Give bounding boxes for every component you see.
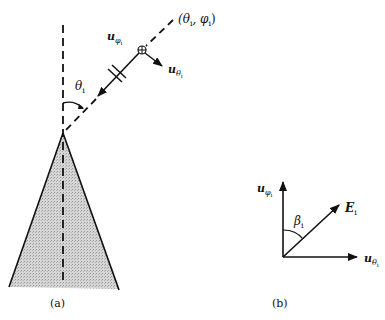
direction-label: (θi, φi) xyxy=(178,12,216,28)
incidence-direction-dashed-line-lower xyxy=(63,99,96,133)
u-theta-label-a: uθi xyxy=(168,63,183,79)
circled-plus-icon xyxy=(138,46,146,54)
u-theta-arrow-a xyxy=(145,53,162,66)
beta-angle-arc xyxy=(283,230,303,239)
e-field-label: Ei xyxy=(344,201,357,217)
u-phi-label-a: uφi xyxy=(107,30,123,46)
beta-angle-label: βi xyxy=(293,214,304,230)
theta-arc-arrowhead xyxy=(78,104,84,109)
theta-angle-label: θi xyxy=(75,79,85,95)
propagation-arrow xyxy=(98,53,139,96)
diagram-canvas: (θi, φi) uφi uθi θi (a) uφi Ei uθi βi (b… xyxy=(0,0,385,320)
panel-b-label: (b) xyxy=(272,297,288,310)
panel-a-label: (a) xyxy=(50,297,65,310)
u-theta-label-b: uθi xyxy=(364,252,379,268)
polarization-hash-icon xyxy=(108,65,126,82)
u-phi-label-b: uφi xyxy=(257,182,273,198)
cone xyxy=(9,133,119,290)
incidence-direction-dashed-line xyxy=(146,20,173,46)
